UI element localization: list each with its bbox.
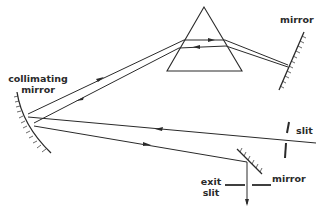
exit-slit-label-line1: exit	[200, 176, 222, 187]
collimating-mirror	[14, 92, 51, 153]
outgoing-ray	[34, 126, 247, 162]
prism	[167, 7, 242, 71]
incoming-ray	[28, 117, 316, 143]
entrance-slit-label: slit	[296, 125, 313, 136]
arrow-down-icon	[245, 199, 249, 206]
collimating-mirror-label: collimating mirror	[8, 73, 68, 95]
top-mirror	[279, 32, 306, 90]
small-mirror-label: mirror	[272, 173, 306, 184]
collimating-mirror-label-line1: collimating	[8, 73, 68, 84]
arrow-icon	[155, 127, 163, 131]
exit-slit-label: exit slit	[200, 176, 222, 198]
arrow-icon	[208, 38, 215, 42]
arrow-icon	[76, 97, 84, 101]
spectrometer-diagram: collimating mirror mirror slit mirror ex…	[0, 0, 326, 211]
arrow-icon	[193, 45, 200, 49]
collimating-mirror-label-line2: mirror	[8, 84, 68, 95]
exit-slit-label-line2: slit	[200, 187, 222, 198]
top-mirror-label: mirror	[280, 14, 314, 25]
